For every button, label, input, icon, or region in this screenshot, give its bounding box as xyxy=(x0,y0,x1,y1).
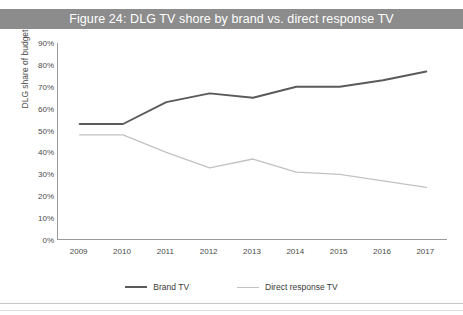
footer-divider-1 xyxy=(0,303,463,304)
y-axis-tick: 70% xyxy=(24,82,54,91)
series-line xyxy=(80,135,427,188)
y-axis-tick: 50% xyxy=(24,126,54,135)
y-axis-tick: 10% xyxy=(24,214,54,223)
figure-title-bar: Figure 24: DLG TV shore by brand vs. dir… xyxy=(0,9,463,29)
x-axis-tick: 2010 xyxy=(102,247,142,256)
y-axis-tick: 30% xyxy=(24,170,54,179)
chart-figure: DLG share of budget 0%10%20%30%40%50%60%… xyxy=(0,29,463,301)
legend-item: Direct response TV xyxy=(237,282,338,292)
y-axis-tick: 0% xyxy=(24,236,54,245)
figure-page: Figure 24: DLG TV shore by brand vs. dir… xyxy=(0,0,463,315)
x-axis-tick: 2017 xyxy=(405,247,445,256)
x-axis-tick: 2009 xyxy=(59,247,99,256)
y-axis-tick: 40% xyxy=(24,148,54,157)
x-axis-tick: 2011 xyxy=(145,247,185,256)
footer-divider-2 xyxy=(0,310,463,311)
page-bleed-text xyxy=(0,0,463,9)
x-axis-tick: 2012 xyxy=(189,247,229,256)
y-axis-tick: 90% xyxy=(24,39,54,48)
plot-area xyxy=(57,43,447,240)
series-line xyxy=(80,71,427,124)
x-axis-tick: 2016 xyxy=(362,247,402,256)
legend-label: Direct response TV xyxy=(265,282,338,292)
x-axis-tick: 2015 xyxy=(319,247,359,256)
legend-swatch-icon xyxy=(237,287,259,288)
x-axis-tick: 2013 xyxy=(232,247,272,256)
x-axis-tick: 2014 xyxy=(275,247,315,256)
y-axis-tick: 80% xyxy=(24,60,54,69)
legend-item: Brand TV xyxy=(125,282,189,292)
y-axis-tick: 20% xyxy=(24,192,54,201)
legend-label: Brand TV xyxy=(153,282,189,292)
legend-swatch-icon xyxy=(125,286,147,288)
chart-legend: Brand TVDirect response TV xyxy=(0,279,463,295)
figure-title: Figure 24: DLG TV shore by brand vs. dir… xyxy=(69,12,394,26)
y-axis-tick: 60% xyxy=(24,104,54,113)
series-lines xyxy=(58,43,448,240)
